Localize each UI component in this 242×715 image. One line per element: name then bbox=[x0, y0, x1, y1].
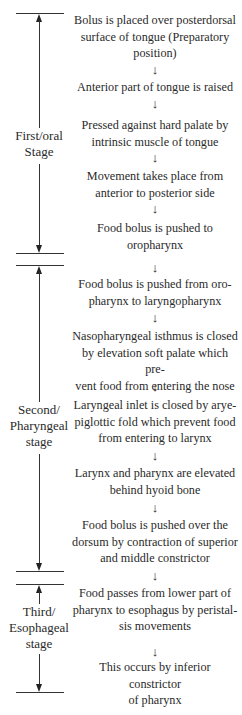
step-2: Anterior part of tongue is raised bbox=[72, 79, 238, 96]
stage-label-line: Stage bbox=[0, 144, 78, 160]
stage-boundary-oral-end bbox=[16, 253, 64, 254]
step-line: Laryngeal inlet is closed by arye- bbox=[72, 397, 238, 414]
flow-arrow-icon: ↓ bbox=[72, 64, 238, 76]
step-line: Nasopharyngeal isthmus is closed bbox=[72, 328, 238, 345]
flow-arrow-icon: ↓ bbox=[72, 152, 238, 164]
stage-boundary-bottom bbox=[16, 692, 64, 693]
flow-arrow-icon: ↓ bbox=[72, 203, 238, 215]
step-line: Pressed against hard palate by bbox=[72, 117, 238, 134]
step-line: Bolus is placed over posterdorsal bbox=[72, 12, 238, 29]
flow-arrow-icon: ↓ bbox=[72, 381, 238, 393]
arrow-down-icon bbox=[36, 245, 42, 253]
flow-arrow-icon: ↓ bbox=[72, 450, 238, 462]
arrow-down-icon bbox=[36, 684, 42, 692]
stage-label-pharyngeal: Second/ Pharyngeal stage bbox=[0, 402, 78, 454]
flow-arrow-icon: ↓ bbox=[72, 262, 238, 274]
stage-label-line: stage bbox=[0, 434, 78, 450]
step-line: Food bolus is pushed over the bbox=[72, 517, 238, 534]
step-line: of pharynx bbox=[72, 692, 238, 709]
step-line: dorsum by contraction of superior bbox=[72, 534, 238, 551]
stage-label-line: First/oral bbox=[0, 128, 78, 144]
flow-arrow-icon: ↓ bbox=[72, 98, 238, 110]
stage-label-line: Third/ bbox=[0, 604, 78, 620]
flow-arrow-icon: ↓ bbox=[72, 312, 238, 324]
step-line: piglottic fold which prevent food bbox=[72, 414, 238, 431]
flow-arrow-icon: ↓ bbox=[72, 502, 238, 514]
stage-label-line: Second/ bbox=[0, 402, 78, 418]
step-line: Movement takes place from bbox=[72, 168, 238, 185]
stage-label-line: Esophageal bbox=[0, 620, 78, 636]
flow-arrow-icon: ↓ bbox=[72, 646, 238, 658]
step-line: oropharynx bbox=[72, 237, 238, 254]
step-line: Food passes from lower part of bbox=[72, 585, 238, 602]
step-3: Pressed against hard palate by intrinsic… bbox=[72, 117, 238, 150]
step-line: pharynx to esophagus by peristal- bbox=[72, 602, 238, 619]
step-line: This occurs by inferior constrictor bbox=[72, 659, 238, 692]
step-line: Anterior part of tongue is raised bbox=[72, 79, 238, 96]
stage-label-line: Pharyngeal bbox=[0, 418, 78, 434]
step-line: and middle constrictor bbox=[72, 550, 238, 567]
arrow-down-icon bbox=[36, 563, 42, 571]
step-line: surface of tongue (Preparatory bbox=[72, 29, 238, 46]
step-4: Movement takes place from anterior to po… bbox=[72, 168, 238, 201]
step-line: Food bolus is pushed from oro- bbox=[72, 276, 238, 293]
step-line: Food bolus is pushed to bbox=[72, 220, 238, 237]
step-10: Food bolus is pushed over the dorsum by … bbox=[72, 517, 238, 567]
step-line: by elevation soft palate which pre- bbox=[72, 345, 238, 378]
step-1: Bolus is placed over posterdorsal surfac… bbox=[72, 12, 238, 62]
stage-label-line: stage bbox=[0, 636, 78, 652]
flow-arrow-icon: ↓ bbox=[72, 570, 238, 582]
step-5: Food bolus is pushed to oropharynx bbox=[72, 220, 238, 253]
stage-label-oral: First/oral Stage bbox=[0, 128, 78, 164]
step-12: This occurs by inferior constrictor of p… bbox=[72, 659, 238, 709]
step-9: Larynx and pharynx are elevated behind h… bbox=[72, 465, 238, 498]
step-line: position) bbox=[72, 45, 238, 62]
step-6: Food bolus is pushed from oro- pharynx t… bbox=[72, 276, 238, 309]
stage-label-esophageal: Third/ Esophageal stage bbox=[0, 604, 78, 654]
step-line: pharynx to laryngopharynx bbox=[72, 293, 238, 310]
step-line: anterior to posterior side bbox=[72, 185, 238, 202]
stage-boundary-pharyngeal-end bbox=[16, 571, 64, 572]
step-line: from entering to larynx bbox=[72, 430, 238, 447]
step-line: sis movements bbox=[72, 618, 238, 635]
step-line: intrinsic muscle of tongue bbox=[72, 134, 238, 151]
step-line: Larynx and pharynx are elevated bbox=[72, 465, 238, 482]
step-8: Laryngeal inlet is closed by arye- piglo… bbox=[72, 397, 238, 447]
step-line: behind hyoid bone bbox=[72, 482, 238, 499]
step-11: Food passes from lower part of pharynx t… bbox=[72, 585, 238, 635]
